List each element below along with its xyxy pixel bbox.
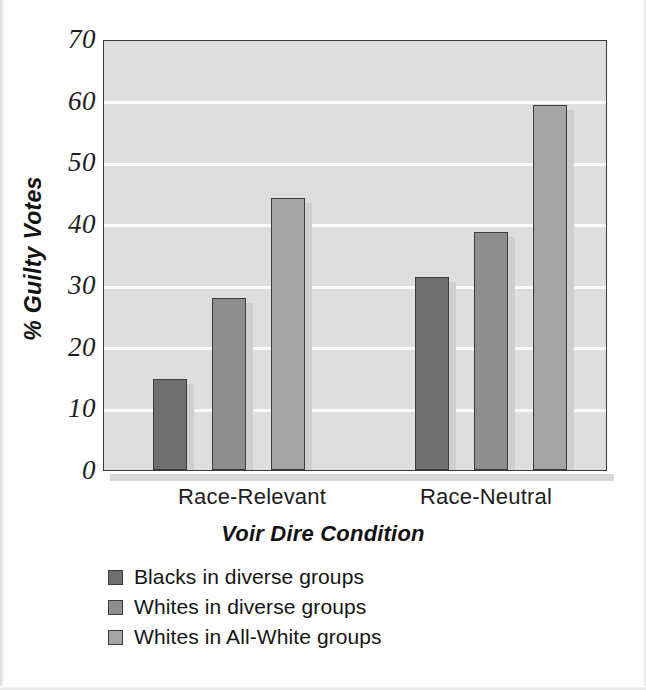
bar-shadow	[187, 384, 194, 470]
gridline-30	[104, 286, 606, 289]
gridline-60	[104, 101, 606, 104]
plot-area-shadow	[110, 474, 614, 481]
gridline-20	[104, 347, 606, 350]
legend-item-1: Blacks in diverse groups	[108, 562, 382, 592]
bar-race-relevant-series-2	[212, 298, 246, 470]
y-tick-40: 40	[44, 211, 96, 238]
bar-race-relevant-series-3	[271, 198, 305, 470]
y-tick-20: 20	[44, 334, 96, 361]
y-axis-tick-labels: 010203040506070	[36, 0, 96, 690]
legend-label-1: Blacks in diverse groups	[134, 565, 364, 589]
legend-label-3: Whites in All-White groups	[134, 625, 382, 649]
legend-item-3: Whites in All-White groups	[108, 622, 382, 652]
plot-area	[103, 40, 607, 471]
bar-race-neutral-series-2	[474, 232, 508, 470]
y-tick-30: 30	[44, 272, 96, 299]
y-tick-0: 0	[44, 457, 96, 484]
legend-item-2: Whites in diverse groups	[108, 592, 382, 622]
y-tick-60: 60	[44, 88, 96, 115]
y-tick-10: 10	[44, 395, 96, 422]
page-edge-bottom	[0, 686, 646, 690]
gridline-50	[104, 163, 606, 166]
bar-race-neutral-series-3	[533, 105, 567, 470]
page-edge-left	[0, 0, 5, 690]
gridline-40	[104, 224, 606, 227]
figure-bar-chart: % Guilty Votes 010203040506070 Race-Rele…	[0, 0, 646, 690]
y-tick-50: 50	[44, 149, 96, 176]
legend-swatch-icon-2	[108, 600, 123, 615]
x-tick-label-1: Race-Neutral	[352, 484, 620, 510]
bar-race-neutral-series-1	[415, 277, 449, 470]
legend-label-2: Whites in diverse groups	[134, 595, 366, 619]
bar-shadow	[567, 110, 574, 470]
bar-shadow	[508, 237, 515, 470]
x-tick-label-0: Race-Relevant	[118, 484, 386, 510]
bar-race-relevant-series-1	[153, 379, 187, 470]
bar-shadow	[305, 203, 312, 470]
x-axis-title: Voir Dire Condition	[0, 521, 646, 547]
legend-swatch-icon-3	[108, 630, 123, 645]
bar-shadow	[246, 303, 253, 470]
page-edge-right	[642, 0, 646, 690]
legend: Blacks in diverse groupsWhites in divers…	[108, 562, 382, 652]
y-tick-70: 70	[44, 26, 96, 53]
legend-swatch-icon-1	[108, 570, 123, 585]
bar-shadow	[449, 282, 456, 470]
